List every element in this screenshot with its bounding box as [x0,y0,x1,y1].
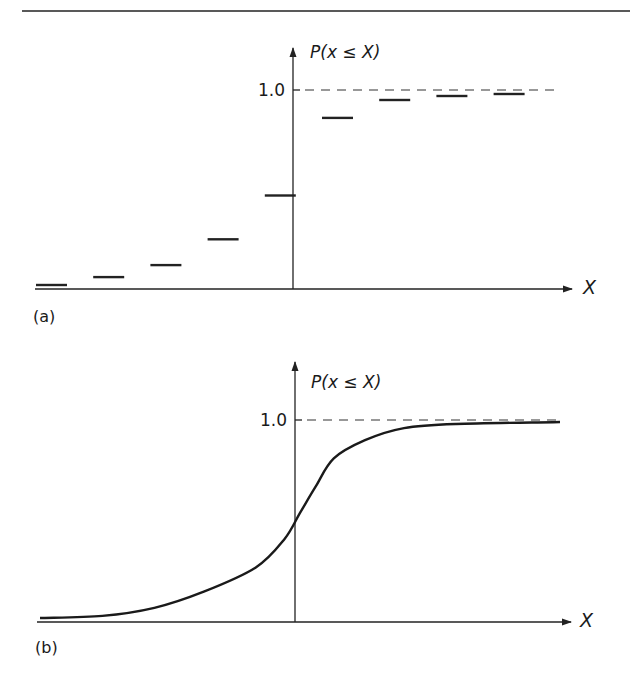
panel-b-continuous-cdf: P(x ≤ X) 1.0 X (b) [35,362,594,657]
panel-b-ytick-label: 1.0 [260,410,287,430]
panel-a-steps [36,94,525,285]
panel-a-y-label: P(x ≤ X) [310,42,380,62]
panel-b-cdf-curve [40,422,560,618]
panel-b-label: (b) [35,638,58,657]
panel-a-label: (a) [33,307,55,326]
figure: P(x ≤ X) 1.0 X (a) P(x ≤ X) 1.0 X (b) [0,0,630,680]
panel-b-y-label: P(x ≤ X) [311,372,381,392]
panel-b-x-label: X [579,609,594,631]
panel-a-x-label: X [582,276,597,298]
panel-a-step-cdf: P(x ≤ X) 1.0 X (a) [33,42,597,326]
panel-a-ytick-label: 1.0 [258,80,285,100]
